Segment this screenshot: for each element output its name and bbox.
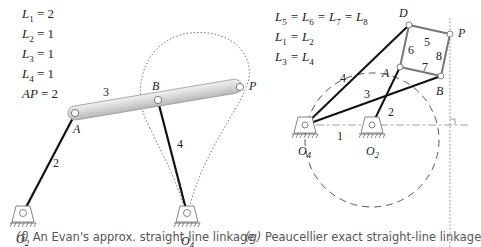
joint-P — [236, 83, 243, 90]
label-O4: O4 — [298, 144, 312, 160]
joint-A — [71, 109, 78, 116]
ground-pivot-O4 — [292, 117, 318, 138]
link-2 — [23, 114, 75, 213]
label-A: A — [381, 66, 390, 80]
right-angle-marker — [450, 119, 455, 125]
label-link-6: 6 — [408, 43, 414, 57]
joint-B — [154, 96, 161, 103]
joint-P — [447, 31, 453, 37]
label-B: B — [152, 79, 160, 93]
label-link-3: 3 — [103, 85, 109, 99]
figure-g-peaucellier-linkage: D P A B 5 6 7 8 4 3 2 1 O4 O2 — [292, 6, 469, 247]
ground-pivot-O2 — [10, 206, 36, 227]
label-P: P — [457, 26, 466, 40]
label-D: D — [398, 6, 408, 20]
ground-pivot-O4 — [174, 206, 200, 227]
label-A: A — [72, 122, 81, 136]
figure-f-evans-linkage: A B P 3 2 4 O2 O4 — [10, 32, 257, 247]
ground-pivot-O2 — [359, 117, 385, 138]
label-B: B — [436, 84, 444, 98]
label-link-7: 7 — [422, 60, 428, 74]
joint-A — [397, 64, 403, 70]
label-link-1: 1 — [337, 129, 343, 143]
joint-D — [406, 22, 412, 28]
joint-B — [438, 73, 444, 79]
label-P: P — [248, 79, 257, 93]
label-link-8: 8 — [436, 49, 442, 63]
coupler-curve — [140, 32, 249, 205]
label-link-2: 2 — [388, 105, 394, 119]
caption-figure-f: (f) An Evan's approx. straight-line link… — [16, 230, 254, 244]
link-4 — [158, 101, 187, 213]
label-link-2: 2 — [53, 156, 59, 170]
label-link-4: 4 — [177, 137, 183, 151]
caption-figure-g: (g) Peaucellier exact straight-line link… — [245, 230, 481, 244]
label-link-3: 3 — [364, 87, 370, 101]
crank-circle — [305, 73, 439, 207]
label-link-5: 5 — [424, 35, 430, 49]
label-link-4: 4 — [340, 71, 346, 85]
label-O2: O2 — [366, 144, 380, 160]
